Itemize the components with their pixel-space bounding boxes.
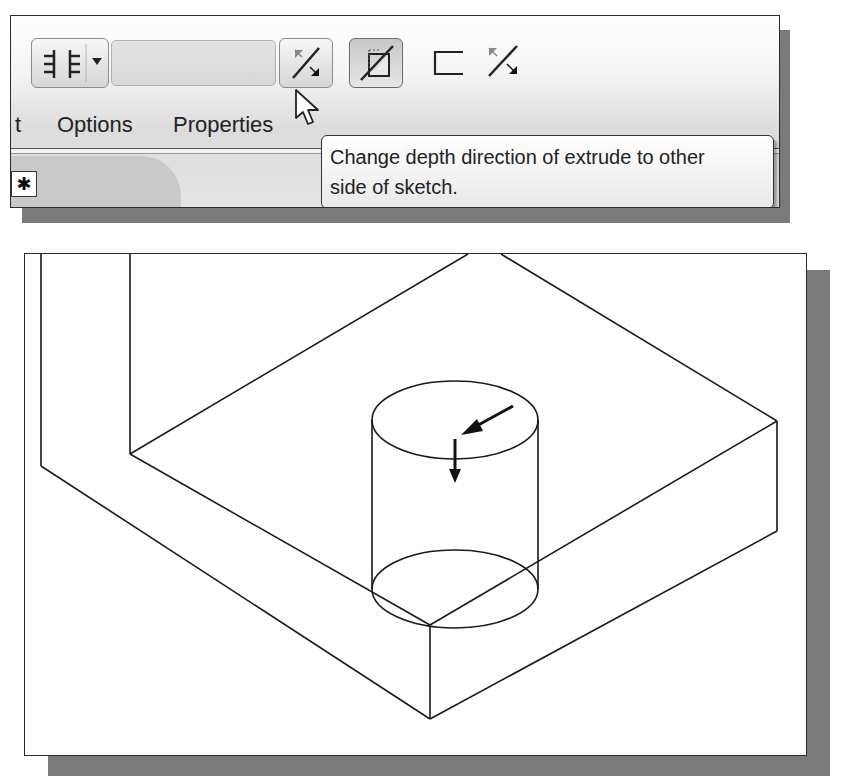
depth-value-field[interactable] bbox=[111, 40, 276, 86]
tab-partial[interactable]: t bbox=[15, 112, 21, 138]
tab-properties[interactable]: Properties bbox=[173, 112, 273, 138]
tooltip-line-2: side of sketch. bbox=[330, 172, 765, 202]
side-option-toggle-button[interactable] bbox=[31, 38, 109, 88]
extrude-direction-arrows[interactable] bbox=[449, 406, 513, 483]
tab-options[interactable]: Options bbox=[57, 112, 133, 138]
bottom-front-right-edge bbox=[430, 531, 777, 719]
flip-direction-icon bbox=[483, 42, 523, 82]
feature-asterisk-icon[interactable]: ✱ bbox=[11, 171, 37, 197]
tooltip: Change depth direction of extrude to oth… bbox=[321, 135, 774, 208]
flip-depth-direction-icon bbox=[281, 40, 331, 86]
extrude-plane-button[interactable] bbox=[349, 38, 403, 88]
top-face-front-right-edge bbox=[430, 421, 777, 625]
cylinder-bottom-ellipse bbox=[372, 550, 538, 628]
vertical-arrow-head-icon bbox=[449, 469, 461, 483]
extrude-plane-icon bbox=[351, 40, 401, 86]
dropdown-arrow-icon[interactable] bbox=[92, 58, 102, 65]
diagonal-arrow-head-icon bbox=[461, 419, 483, 435]
top-face-front-left-edge bbox=[130, 454, 430, 625]
top-face-back-left-edge bbox=[130, 254, 468, 454]
top-face-back-right-edge bbox=[501, 254, 777, 421]
open-profile-icon bbox=[429, 42, 469, 82]
open-profile-button[interactable] bbox=[429, 42, 469, 82]
flip-depth-direction-button[interactable] bbox=[279, 38, 333, 88]
extrude-toolbar bbox=[11, 38, 779, 90]
model-viewport[interactable] bbox=[24, 253, 807, 756]
tooltip-line-1: Change depth direction of extrude to oth… bbox=[330, 142, 765, 172]
isometric-block-diagram bbox=[25, 254, 807, 756]
side-alignment-icon bbox=[32, 40, 108, 86]
extrude-dashboard-panel: t Options Properties ✱ Change depth dire… bbox=[10, 15, 780, 208]
flip-direction-secondary-button[interactable] bbox=[483, 42, 523, 82]
mouse-pointer-icon bbox=[294, 88, 324, 130]
